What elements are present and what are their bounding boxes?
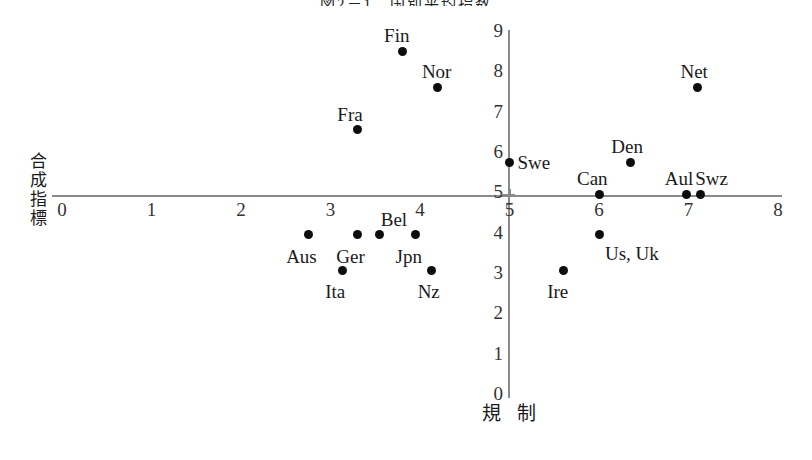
figure-title: 図2－1 国別平均指数 bbox=[0, 0, 812, 6]
x-tick-label-7: 7 bbox=[677, 199, 701, 221]
y-axis-label-char-0: 合 bbox=[28, 152, 48, 171]
x-tick-label-3: 3 bbox=[319, 199, 343, 221]
data-point-label-usuk: Us, Uk bbox=[605, 243, 659, 265]
data-point-label-swz: Swz bbox=[695, 168, 728, 190]
data-point-label-ire: Ire bbox=[547, 281, 568, 303]
data-point-label-fra: Fra bbox=[337, 104, 362, 126]
data-point-label-den: Den bbox=[611, 136, 643, 158]
data-point-swz bbox=[696, 190, 705, 199]
y-axis-label: 合 成 指 標 bbox=[28, 152, 48, 228]
x-axis-label: 規 制 bbox=[452, 398, 572, 425]
x-tick-label-8: 8 bbox=[766, 199, 790, 221]
y-axis-label-char-1: 成 bbox=[28, 171, 48, 190]
data-point-nor bbox=[433, 83, 442, 92]
y-tick-label-8: 8 bbox=[479, 60, 503, 82]
y-tick-label-9: 9 bbox=[479, 20, 503, 42]
y-axis-label-char-3: 標 bbox=[28, 209, 48, 228]
data-point-label-net: Net bbox=[680, 61, 707, 83]
data-point-label-ger: Ger bbox=[336, 246, 364, 268]
y-axis-label-char-2: 指 bbox=[28, 190, 48, 209]
y-tick-label-1: 1 bbox=[479, 343, 503, 365]
y-tick-label-6: 6 bbox=[479, 141, 503, 163]
data-point-ita bbox=[338, 266, 347, 275]
data-point-label-nz: Nz bbox=[418, 281, 440, 303]
data-point-label-jpn: Jpn bbox=[396, 246, 422, 268]
y-tick-label-2: 2 bbox=[479, 302, 503, 324]
x-axis-line bbox=[52, 195, 782, 197]
data-point-usuk bbox=[595, 230, 604, 239]
data-point-aus bbox=[304, 230, 313, 239]
data-point-aul bbox=[682, 190, 691, 199]
data-point-can bbox=[595, 190, 604, 199]
y-tick-label-3: 3 bbox=[479, 262, 503, 284]
data-point-nz bbox=[427, 266, 436, 275]
x-tick-label-4: 4 bbox=[408, 199, 432, 221]
y-tick-label-5: 5 bbox=[479, 181, 503, 203]
y-tick-mark-5 bbox=[501, 194, 515, 195]
data-point-label-fin: Fin bbox=[384, 25, 409, 47]
data-point-fra bbox=[353, 125, 362, 134]
data-point-label-nor: Nor bbox=[422, 61, 452, 83]
data-point-jpn bbox=[411, 230, 420, 239]
y-tick-label-7: 7 bbox=[479, 101, 503, 123]
data-point-label-aus: Aus bbox=[286, 246, 317, 268]
data-point-label-ita: Ita bbox=[325, 281, 345, 303]
data-point-bel bbox=[375, 230, 384, 239]
data-point-label-aul: Aul bbox=[665, 168, 694, 190]
data-point-label-swe: Swe bbox=[518, 152, 551, 174]
scatter-plot-figure: 図2－1 国別平均指数 012345678 0123456789 FinNorF… bbox=[0, 0, 812, 460]
x-tick-label-6: 6 bbox=[587, 199, 611, 221]
data-point-label-can: Can bbox=[577, 168, 608, 190]
data-point-fin bbox=[398, 47, 407, 56]
data-point-swe bbox=[505, 158, 514, 167]
data-point-ger bbox=[353, 230, 362, 239]
data-point-den bbox=[626, 158, 635, 167]
x-tick-label-0: 0 bbox=[50, 199, 74, 221]
data-point-net bbox=[693, 83, 702, 92]
x-tick-label-1: 1 bbox=[140, 199, 164, 221]
data-point-ire bbox=[559, 266, 568, 275]
x-tick-label-2: 2 bbox=[229, 199, 253, 221]
y-tick-label-4: 4 bbox=[479, 222, 503, 244]
data-point-label-bel: Bel bbox=[381, 209, 407, 231]
